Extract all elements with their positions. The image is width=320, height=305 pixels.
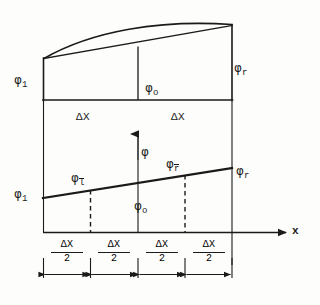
bottom-phi-left-label: φ1	[14, 186, 27, 202]
top-delta-x-right-label: ΔX	[171, 112, 185, 123]
top-phi-left-label: φ1	[14, 72, 27, 88]
dimension-fraction-1: ΔX 2	[51, 240, 83, 264]
top-delta-x-left-label: ΔX	[76, 112, 90, 123]
figure-container: φ1 φo φr ΔX ΔX φ φ1 φl φr φo φr x ΔX 2 Δ…	[0, 0, 320, 305]
bottom-phi-right-face-label: φr	[166, 156, 179, 172]
dimension-fraction-3: ΔX 2	[146, 240, 178, 264]
bottom-phi-left-face-label: φl	[71, 170, 84, 186]
top-phi-center-label: φo	[145, 80, 158, 96]
bottom-phi-center-label: φo	[134, 198, 147, 214]
bottom-phi-right-label: φr	[236, 163, 249, 179]
dimension-fraction-2: ΔX 2	[98, 240, 130, 264]
phi-axis-label: φ	[141, 144, 149, 160]
dimension-fraction-4: ΔX 2	[193, 240, 225, 264]
top-phi-right-label: φr	[234, 60, 247, 76]
x-axis-label: x	[292, 226, 299, 237]
